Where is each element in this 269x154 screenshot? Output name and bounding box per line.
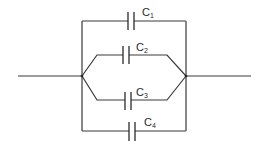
label-c4: C4	[144, 117, 156, 129]
right-junction-node	[185, 75, 188, 78]
circuit-drawing	[0, 0, 269, 154]
circuit-diagram: C1 C2 C3 C4	[0, 0, 269, 154]
label-c3: C3	[136, 87, 148, 99]
capacitor-c2	[82, 46, 186, 76]
capacitor-c1	[82, 12, 186, 30]
capacitor-c3	[82, 76, 186, 110]
label-c1: C1	[142, 7, 154, 19]
capacitor-c4	[82, 122, 186, 141]
left-junction-node	[81, 75, 84, 78]
label-c2: C2	[136, 42, 148, 54]
